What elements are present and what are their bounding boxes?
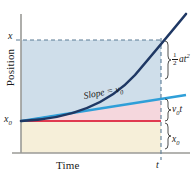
x-tick-label-t: t [156, 160, 159, 170]
position-time-graph-figure: Position Time x x0 t Slope = v0 1 2 at2 … [0, 0, 192, 176]
term-v0t-suffix: t [179, 104, 182, 114]
term-x0-subscript: 0 [176, 139, 179, 146]
y-axis-title: Position [5, 41, 16, 95]
bracket-x0-shape [165, 123, 171, 149]
bracket-at2-shape [165, 41, 171, 79]
term-at2-exponent: 2 [186, 52, 189, 59]
y-tick-x0-subscript: 0 [8, 119, 11, 126]
slope-annotation-subscript: 0 [119, 88, 124, 95]
region-x0 [21, 121, 161, 153]
term-label-v0t: v0t [172, 105, 182, 116]
fraction-denominator: 2 [172, 60, 178, 67]
y-tick-label-x0: x0 [4, 114, 12, 127]
bracket-v0t-shape [165, 99, 171, 121]
term-label-x0: x0 [172, 135, 179, 146]
one-half-fraction: 1 2 [172, 52, 178, 67]
y-tick-label-x: x [8, 31, 12, 41]
x-axis-title: Time [56, 160, 80, 171]
term-label-half-a-t-squared: 1 2 at2 [172, 52, 190, 67]
